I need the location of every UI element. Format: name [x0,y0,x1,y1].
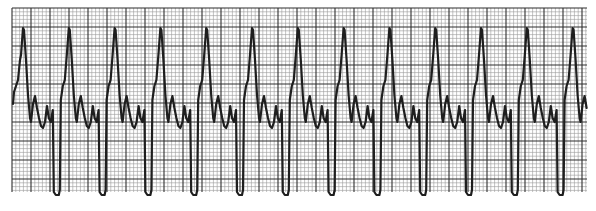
ecg-strip [0,0,596,211]
